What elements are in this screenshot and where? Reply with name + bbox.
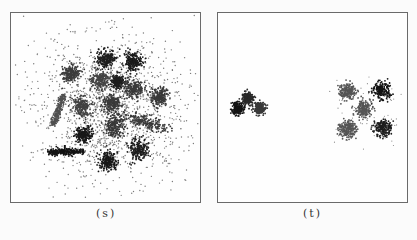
noise-point <box>143 99 144 100</box>
cluster-point <box>129 49 131 51</box>
cluster-point <box>62 105 64 107</box>
cluster-point <box>126 54 128 56</box>
cluster-point <box>96 98 98 100</box>
cluster-point <box>348 86 350 88</box>
cluster-point <box>144 122 146 124</box>
cluster-point <box>341 128 343 130</box>
cluster-point <box>56 108 58 110</box>
cluster-point <box>357 113 359 115</box>
noise-point <box>172 143 173 144</box>
cluster-point <box>132 143 134 145</box>
cluster-point <box>117 126 119 128</box>
noise-point <box>175 91 176 92</box>
noise-point <box>181 83 182 84</box>
cluster-point <box>144 89 146 91</box>
cluster-point <box>107 129 109 131</box>
cluster-point <box>245 90 247 92</box>
noise-point <box>139 78 140 79</box>
cluster-point <box>112 58 114 60</box>
noise-point <box>55 144 56 145</box>
cluster-point <box>75 151 77 153</box>
cluster-point <box>115 124 117 126</box>
halo-point <box>346 91 347 92</box>
noise-point <box>130 161 131 162</box>
cluster-point <box>379 100 381 102</box>
cluster-point <box>347 126 349 128</box>
noise-point <box>63 161 64 162</box>
cluster-point <box>132 158 134 160</box>
cluster-point <box>70 96 72 98</box>
halo-point <box>391 100 392 101</box>
cluster-point <box>106 76 108 78</box>
noise-point <box>93 157 94 158</box>
cluster-point <box>155 100 157 102</box>
noise-point <box>94 56 95 57</box>
cluster-point <box>135 75 137 77</box>
noise-point <box>101 114 102 115</box>
halo-point <box>337 108 338 109</box>
noise-point <box>186 169 187 170</box>
cluster-point <box>152 126 154 128</box>
cluster-point <box>238 109 240 111</box>
cluster-point <box>78 103 80 105</box>
cluster-point <box>111 105 113 107</box>
halo-point <box>358 109 359 110</box>
noise-point <box>54 103 55 104</box>
noise-point <box>113 67 114 68</box>
cluster-point <box>111 96 113 98</box>
cluster-point <box>158 100 160 102</box>
cluster-point <box>138 156 140 158</box>
noise-point <box>187 136 188 137</box>
cluster-point <box>353 91 355 93</box>
noise-point <box>84 145 85 146</box>
noise-point <box>171 172 172 173</box>
halo-point <box>383 90 384 91</box>
noise-point <box>112 46 113 47</box>
noise-point <box>45 176 46 177</box>
cluster-point <box>392 120 394 122</box>
noise-point <box>148 57 149 58</box>
cluster-point <box>376 128 378 130</box>
cluster-point <box>61 73 63 75</box>
cluster-point <box>92 112 94 114</box>
cluster-point <box>68 77 70 79</box>
noise-point <box>140 95 141 96</box>
cluster-point <box>124 77 126 79</box>
noise-point <box>63 168 64 169</box>
cluster-point <box>390 133 392 135</box>
noise-point <box>90 55 91 56</box>
noise-point <box>65 193 66 194</box>
noise-point <box>71 136 72 137</box>
noise-point <box>153 132 154 133</box>
noise-point <box>95 30 96 31</box>
cluster-point <box>349 128 351 130</box>
noise-point <box>85 150 86 151</box>
halo-point <box>339 100 340 101</box>
noise-point <box>165 146 166 147</box>
cluster-point <box>150 114 152 116</box>
cluster-point <box>125 114 127 116</box>
noise-point <box>87 78 88 79</box>
cluster-point <box>140 119 142 121</box>
halo-point <box>360 109 361 110</box>
cluster-point <box>103 170 105 172</box>
cluster-point <box>121 63 123 65</box>
noise-point <box>152 166 153 167</box>
cluster-point <box>116 84 118 86</box>
cluster-point <box>123 129 125 131</box>
halo-point <box>348 84 349 85</box>
noise-point <box>81 98 82 99</box>
noise-point <box>173 119 174 120</box>
cluster-point <box>127 53 129 55</box>
cluster-point <box>104 152 106 154</box>
noise-point <box>99 125 100 126</box>
cluster-point <box>135 70 137 72</box>
cluster-point <box>164 95 166 97</box>
noise-point <box>70 99 71 100</box>
noise-point <box>92 62 93 63</box>
noise-point <box>99 109 100 110</box>
cluster-point <box>84 122 86 124</box>
noise-point <box>148 99 149 100</box>
cluster-point <box>359 103 361 105</box>
cluster-point <box>122 65 124 67</box>
